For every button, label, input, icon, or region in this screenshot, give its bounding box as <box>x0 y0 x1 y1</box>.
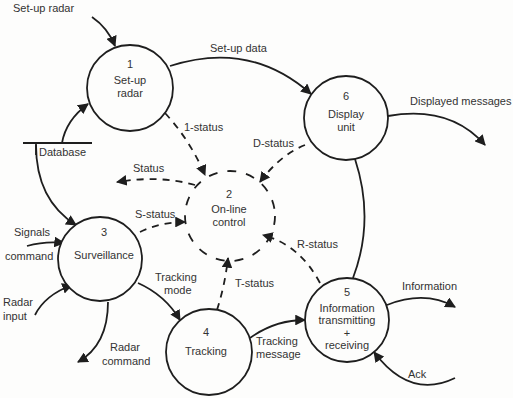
process-5-label-4: receiving <box>325 339 369 351</box>
label-status: Status <box>133 162 165 174</box>
datastore-database: Database <box>23 143 92 158</box>
label-displayed-messages: Displayed messages <box>410 95 512 107</box>
process-information-transmitting: 5 Information transmitting + receiving <box>305 278 389 362</box>
process-2-number: 2 <box>226 188 232 200</box>
process-3-label-1: Surveillance <box>74 249 134 261</box>
process-2-label-2: control <box>212 216 245 228</box>
label-tracking-message-1: Tracking <box>256 335 298 347</box>
flow-setup-radar <box>92 17 115 46</box>
process-4-label-1: Tracking <box>185 345 227 357</box>
flow-radar-command <box>78 302 108 362</box>
process-6-label-2: unit <box>337 121 355 133</box>
process-5-label-2: transmitting <box>319 314 376 326</box>
flow-status <box>117 179 195 185</box>
process-1-label-1: Set-up <box>114 74 146 86</box>
label-setup-radar: Set-up radar <box>13 2 74 14</box>
label-tracking-mode-1: Tracking <box>155 271 197 283</box>
flow-s-status <box>140 222 185 232</box>
label-tracking-message-2: message <box>256 348 301 360</box>
label-ack: Ack <box>408 368 427 380</box>
process-surveillance: 3 Surveillance <box>58 217 142 301</box>
process-display-unit: 6 Display unit <box>304 76 388 160</box>
flow-d-status <box>260 145 305 182</box>
label-radar-input-2: input <box>3 310 27 322</box>
flow-information <box>387 298 455 307</box>
process-2-label-1: On-line <box>211 203 246 215</box>
flow-signals-command <box>27 242 64 246</box>
flow-t-status <box>217 258 228 310</box>
process-5-label-1: Information <box>319 302 374 314</box>
label-tracking-mode-2: mode <box>164 284 192 296</box>
label-information: Information <box>402 280 457 292</box>
process-5-number: 5 <box>344 286 350 298</box>
label-s-status: S-status <box>135 208 176 220</box>
flow-setup-data <box>170 58 311 94</box>
label-signals: Signals <box>14 226 51 238</box>
process-6-label-1: Display <box>328 108 365 120</box>
process-1-label-2: radar <box>117 87 143 99</box>
label-t-status: T-status <box>235 277 275 289</box>
process-4-number: 4 <box>203 326 209 338</box>
process-5-label-3: + <box>344 327 350 339</box>
label-setup-data: Set-up data <box>210 42 268 54</box>
label-radar-input-1: Radar <box>3 296 33 308</box>
label-command: command <box>5 250 53 262</box>
data-flow-diagram: Database 2 On-line control 1 Set-up rada… <box>0 0 513 398</box>
process-online-control: 2 On-line control <box>185 171 275 261</box>
process-3-number: 3 <box>101 226 107 238</box>
flow-radar-input <box>35 285 72 315</box>
flow-displayed-messages <box>388 114 485 145</box>
database-label: Database <box>39 146 86 158</box>
label-radar-command-2: command <box>102 355 150 367</box>
process-6-number: 6 <box>343 90 349 102</box>
label-1-status: 1-status <box>184 121 224 133</box>
process-tracking: 4 Tracking <box>166 309 252 395</box>
label-r-status: R-status <box>297 238 338 250</box>
label-radar-command-1: Radar <box>110 341 140 353</box>
flow-display-to-5 <box>353 159 365 278</box>
flow-database-to-setup <box>62 104 88 143</box>
label-d-status: D-status <box>253 137 294 149</box>
process-setup-radar: 1 Set-up radar <box>87 45 173 131</box>
process-1-number: 1 <box>127 58 133 70</box>
